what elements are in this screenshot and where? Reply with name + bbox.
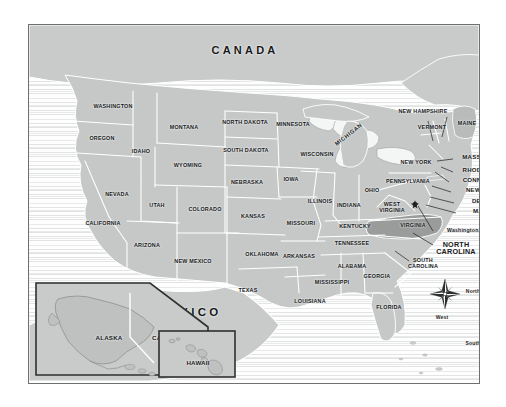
compass-rose [430, 279, 460, 309]
state-label-virginia: VIRGINIA [400, 223, 426, 229]
state-label-new-york: NEW YORK [400, 160, 431, 166]
state-label-iowa: IOWA [283, 177, 298, 183]
state-callout-rhode-island: RHODE ISLAND [463, 167, 480, 173]
state-label-california: CALIFORNIA [85, 221, 120, 227]
state-callout-massachusetts: MASSACHUSETTS [462, 154, 480, 160]
state-callout-connecticut: CONNECTICUT [463, 177, 480, 183]
state-label-louisiana: LOUISIANA [294, 299, 325, 305]
state-label-georgia: GEORGIA [364, 274, 391, 280]
state-label-florida: FLORIDA [376, 305, 401, 311]
state-label-tennessee: TENNESSEE [335, 241, 369, 247]
label-line-2: CAROLINA [436, 248, 476, 255]
compass-label-north: North [466, 289, 480, 294]
state-callout-delaware: DELAWARE [472, 198, 480, 204]
state-label-illinois: ILLINOIS [308, 199, 332, 205]
us-map: WASHINGTONOREGONIDAHOMONTANAWYOMINGNEVAD… [0, 0, 506, 407]
label-line-2: VIRGINIA [379, 207, 405, 213]
state-label-arizona: ARIZONA [134, 243, 160, 249]
state-label-wyoming: WYOMING [174, 163, 202, 169]
state-callout-maryland: MARYLAND [473, 208, 480, 214]
state-label-north-carolina: NORTHCAROLINA [436, 241, 476, 256]
state-label-utah: UTAH [149, 203, 164, 209]
state-label-north-dakota: NORTH DAKOTA [222, 120, 268, 126]
caribbean-islets [399, 342, 442, 374]
state-label-nevada: NEVADA [105, 192, 129, 198]
label-line-2: CAROLINA [408, 263, 438, 269]
state-label-wisconsin: WISCONSIN [301, 152, 334, 158]
state-label-pennsylvania: PENNSYLVANIA [386, 179, 430, 185]
map-frame: WASHINGTONOREGONIDAHOMONTANAWYOMINGNEVAD… [28, 24, 480, 384]
hawaii-inset[interactable]: HAWAII [158, 330, 236, 378]
state-label-west-virginia: WESTVIRGINIA [379, 202, 405, 213]
hawaii-inset-label: HAWAII [186, 360, 209, 366]
state-label-south-dakota: SOUTH DAKOTA [223, 148, 268, 154]
state-label-ohio: OHIO [365, 188, 380, 194]
state-label-texas: TEXAS [239, 288, 258, 294]
hawaii-inset-svg [158, 330, 236, 378]
state-label-mississippi: MISSISSIPPI [315, 280, 349, 286]
country-label-canada: CANADA [212, 45, 279, 56]
state-label-missouri: MISSOURI [287, 221, 315, 227]
state-label-minnesota: MINNESOTA [276, 122, 310, 128]
state-label-alabama: ALABAMA [338, 264, 367, 270]
state-label-kansas: KANSAS [241, 214, 265, 220]
compass-label-west: West [436, 315, 449, 320]
state-label-arkansas: ARKANSAS [283, 254, 315, 260]
state-label-new-hampshire: NEW HAMPSHIRE [398, 109, 447, 115]
state-label-idaho: IDAHO [132, 149, 150, 155]
state-label-nebraska: NEBRASKA [231, 180, 263, 186]
state-label-new-mexico: NEW MEXICO [174, 259, 211, 265]
alaska-inset-label: ALASKA [96, 335, 123, 341]
state-label-oregon: OREGON [89, 136, 114, 142]
state-label-vermont: VERMONT [418, 125, 446, 131]
state-label-indiana: INDIANA [337, 203, 361, 209]
compass-label-south: South [465, 341, 480, 346]
state-label-colorado: COLORADO [188, 207, 221, 213]
state-label-south-carolina: SOUTHCAROLINA [408, 258, 438, 269]
state-callout-new-jersey: NEW JERSEY [466, 187, 480, 193]
washington-dc-label: Washington, D.C. [447, 228, 480, 233]
state-label-montana: MONTANA [170, 125, 199, 131]
state-label-oklahoma: OKLAHOMA [245, 252, 278, 258]
state-label-kentucky: KENTUCKY [339, 224, 371, 230]
state-label-maine: MAINE [458, 121, 476, 127]
state-label-washington: WASHINGTON [93, 104, 132, 110]
